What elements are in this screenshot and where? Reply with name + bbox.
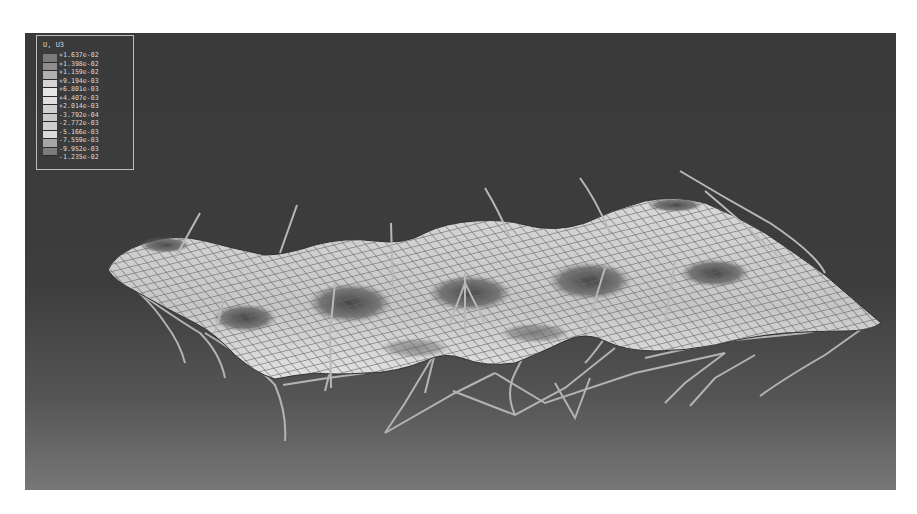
legend-label: +1.637e-02 [59,51,99,60]
element-mesh [25,33,896,490]
legend-swatch [43,139,57,148]
legend-swatch [43,114,57,123]
legend-label: +1.398e-02 [59,60,99,69]
legend-swatch [43,88,57,97]
legend-swatch [43,80,57,89]
legend-swatch [43,148,57,157]
legend-label: -7.559e-03 [59,136,99,145]
legend-title: U, U3 [43,41,64,49]
legend-label: +1.159e-02 [59,68,99,77]
legend-label: +6.801e-03 [59,85,99,94]
legend-label: -9.952e-03 [59,145,99,154]
legend-swatch [43,105,57,114]
contour-legend: U, U3 +1.637e-02 +1.398e-02 +1.159e-02 +… [36,35,134,170]
legend-label: -1.235e-02 [59,153,99,162]
legend-label: -5.166e-03 [59,128,99,137]
legend-swatch [43,71,57,80]
legend-label: +4.407e-03 [59,94,99,103]
legend-label: -2.772e-03 [59,119,99,128]
legend-swatch [43,131,57,140]
legend-labels: +1.637e-02 +1.398e-02 +1.159e-02 +9.194e… [59,51,99,162]
legend-swatch [43,122,57,131]
legend-color-bar [43,54,57,156]
legend-swatch [43,54,57,63]
legend-label: -3.792e-04 [59,111,99,120]
legend-label: +9.194e-03 [59,77,99,86]
legend-swatch [43,97,57,106]
deformed-membrane-model [25,33,896,490]
fea-viewport: U, U3 +1.637e-02 +1.398e-02 +1.159e-02 +… [25,33,896,490]
cropped-document-text-line [0,0,917,5]
legend-swatch [43,63,57,72]
legend-label: +2.014e-03 [59,102,99,111]
